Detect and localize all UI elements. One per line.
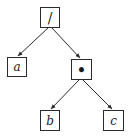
node-label: b: [46, 115, 54, 127]
expression-tree-diagram: / a • b c: [0, 0, 130, 139]
node-label: c: [110, 115, 117, 127]
node-a: a: [7, 57, 27, 77]
node-label: •: [77, 63, 86, 77]
node-label: /: [48, 11, 53, 25]
edge-root-to-mul: [52, 28, 80, 58]
edge-root-to-a: [18, 28, 48, 56]
edge-mul-to-b: [51, 80, 79, 109]
node-root-divide: /: [40, 7, 60, 28]
node-label: a: [13, 61, 20, 73]
node-multiply: •: [71, 59, 92, 80]
node-c: c: [103, 110, 124, 131]
edge-mul-to-c: [83, 80, 112, 109]
node-b: b: [40, 110, 60, 131]
